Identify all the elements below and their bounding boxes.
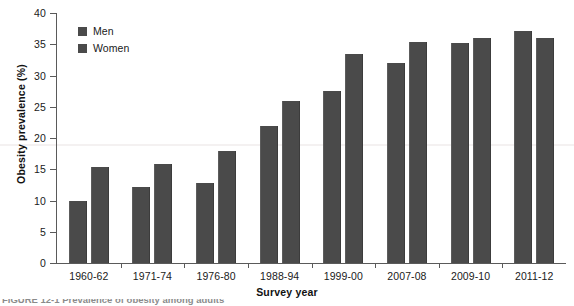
y-tick-35 bbox=[50, 44, 57, 45]
bar-women-1976-80 bbox=[218, 151, 236, 263]
bar-men-1960-62 bbox=[69, 201, 87, 264]
y-tick-30 bbox=[50, 76, 57, 77]
y-axis-title: Obesity prevalence (%) bbox=[15, 14, 27, 234]
x-tick-divider-3 bbox=[248, 264, 249, 268]
y-tick-40 bbox=[50, 13, 57, 14]
x-axis-title: Survey year bbox=[0, 286, 574, 298]
y-tick-5 bbox=[50, 232, 57, 233]
x-tick-divider-5 bbox=[375, 264, 376, 268]
bar-women-1999-00 bbox=[345, 54, 363, 263]
figure-caption: FIGURE 12-1 Prevalence of obesity among … bbox=[2, 299, 224, 305]
y-tick-20 bbox=[50, 138, 57, 139]
x-tick-divider-4 bbox=[312, 264, 313, 268]
y-tick-10 bbox=[50, 201, 57, 202]
bar-men-1976-80 bbox=[196, 183, 214, 263]
bar-women-2007-08 bbox=[409, 42, 427, 263]
x-tick-label-2011-12: 2011-12 bbox=[494, 271, 574, 282]
x-tick-divider-7 bbox=[502, 264, 503, 268]
bar-women-2011-12 bbox=[536, 38, 554, 263]
y-tick-25 bbox=[50, 107, 57, 108]
plot-area bbox=[57, 13, 566, 263]
x-tick-divider-6 bbox=[439, 264, 440, 268]
y-tick-15 bbox=[50, 169, 57, 170]
figure-container: Men Women 0510152025303540 1960-621971-7… bbox=[0, 0, 574, 306]
bar-women-1988-94 bbox=[282, 101, 300, 264]
bar-men-1971-74 bbox=[132, 187, 150, 263]
y-tick-0 bbox=[50, 263, 57, 264]
x-tick-divider-2 bbox=[184, 264, 185, 268]
bar-men-2009-10 bbox=[451, 43, 469, 263]
bar-men-2007-08 bbox=[387, 63, 405, 263]
figure-caption-strip: FIGURE 12-1 Prevalence of obesity among … bbox=[0, 299, 574, 306]
bar-women-1960-62 bbox=[91, 167, 109, 263]
bar-men-1988-94 bbox=[260, 126, 278, 263]
y-tick-label-0: 0 bbox=[20, 258, 46, 269]
bar-women-2009-10 bbox=[473, 38, 491, 263]
bar-men-2011-12 bbox=[514, 31, 532, 264]
bar-men-1999-00 bbox=[323, 91, 341, 263]
bar-women-1971-74 bbox=[154, 164, 172, 263]
x-tick-divider-1 bbox=[121, 264, 122, 268]
